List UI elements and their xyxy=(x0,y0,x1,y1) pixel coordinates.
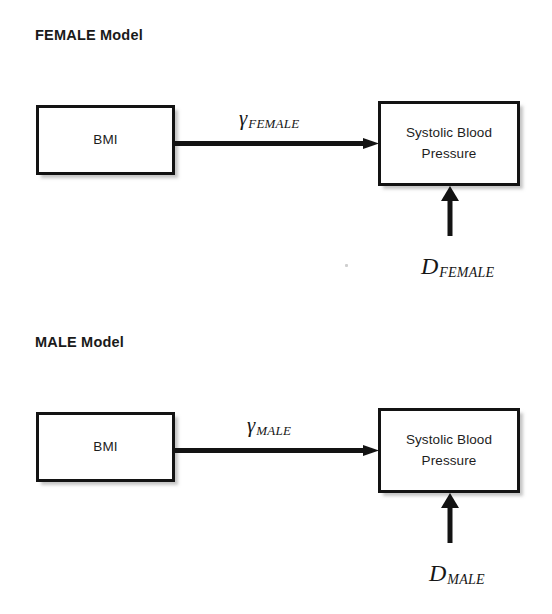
path-coefficient-label-male: γMALE xyxy=(247,413,291,439)
panel-title-male: MALE Model xyxy=(35,334,124,350)
disturbance-label-male: DMALE xyxy=(429,560,485,588)
disturbance-label-female: DFEMALE xyxy=(421,253,494,281)
node-systolic-blood-pressure-female[interactable]: Systolic Blood Pressure xyxy=(378,101,520,186)
right-arrow-icon-female-path xyxy=(175,138,379,149)
gamma-subscript-male: MALE xyxy=(256,423,291,438)
disturbance-subscript-female: FEMALE xyxy=(439,265,494,280)
scan-speck xyxy=(345,264,348,267)
right-arrow-icon-male-path xyxy=(175,445,379,456)
up-arrow-icon-male-disturbance xyxy=(438,493,462,543)
up-arrow-icon-female-disturbance xyxy=(438,186,462,236)
node-bmi-label-female: BMI xyxy=(93,130,117,151)
disturbance-subscript-male: MALE xyxy=(447,572,484,587)
node-sbp-line1-male: Systolic Blood xyxy=(406,432,492,447)
panel-title-female: FEMALE Model xyxy=(35,27,143,43)
node-sbp-line2-female: Pressure xyxy=(422,146,477,161)
node-sbp-label-female: Systolic Blood Pressure xyxy=(406,123,492,165)
node-systolic-blood-pressure-male[interactable]: Systolic Blood Pressure xyxy=(378,408,520,493)
disturbance-symbol-female: D xyxy=(421,253,438,279)
gamma-symbol-female: γ xyxy=(239,106,247,130)
panel-female-model: FEMALE Model BMI Systolic Blood Pressure… xyxy=(0,0,552,307)
node-bmi-label-male: BMI xyxy=(93,437,117,458)
node-bmi-female[interactable]: BMI xyxy=(36,105,175,175)
node-sbp-line1-female: Systolic Blood xyxy=(406,125,492,140)
panel-male-model: MALE Model BMI Systolic Blood Pressure γ… xyxy=(0,307,552,614)
node-sbp-line2-male: Pressure xyxy=(422,453,477,468)
path-coefficient-label-female: γFEMALE xyxy=(239,106,299,132)
gamma-subscript-female: FEMALE xyxy=(248,116,299,131)
node-sbp-label-male: Systolic Blood Pressure xyxy=(406,430,492,472)
disturbance-symbol-male: D xyxy=(429,560,446,586)
gamma-symbol-male: γ xyxy=(247,413,255,437)
node-bmi-male[interactable]: BMI xyxy=(36,412,175,482)
